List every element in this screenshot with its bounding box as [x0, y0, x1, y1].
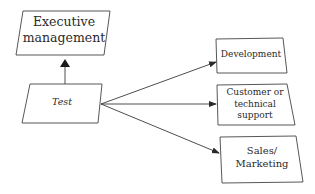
node-executive-label: Executive management — [20, 14, 108, 46]
arrow-test-to-sales — [101, 104, 219, 153]
arrowhead-up-icon — [60, 59, 70, 67]
node-test-label: Test — [24, 97, 100, 107]
org-diagram: Executive management Test Development Cu… — [0, 0, 315, 194]
node-sales-label: Sales/ Marketing — [222, 144, 302, 170]
arrow-test-to-development — [101, 62, 216, 104]
node-development-label: Development — [216, 50, 286, 59]
node-support-label: Customer or technical support — [218, 87, 292, 122]
